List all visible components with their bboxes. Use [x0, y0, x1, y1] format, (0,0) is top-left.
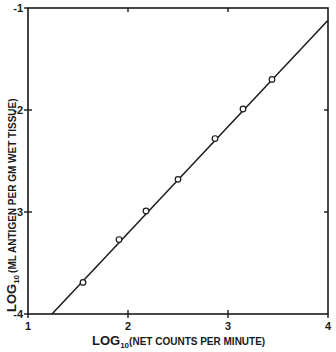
x-tick-label: 4: [325, 320, 332, 332]
data-point-marker: [116, 237, 122, 243]
x-tick-label: 1: [25, 320, 31, 332]
data-point-marker: [80, 280, 86, 286]
x-tick-label: 2: [125, 320, 131, 332]
fit-line: [52, 20, 328, 314]
y-axis-label-subscript: 10: [12, 274, 21, 283]
x-tick-label: 3: [225, 320, 231, 332]
y-axis-label-text: (ML ANTIGEN PER GM WET TISSUE): [7, 98, 18, 272]
data-point-marker: [212, 136, 218, 142]
data-point-marker: [143, 208, 149, 214]
svg-text:LOG10(NET COUNTS PER MINUTE): LOG10(NET COUNTS PER MINUTE): [92, 333, 265, 350]
axis-ticks: 1234-4-3-2-1: [13, 2, 332, 332]
x-axis-label-text: (NET COUNTS PER MINUTE): [129, 336, 265, 347]
plot-border: [28, 8, 328, 314]
chart: 1234-4-3-2-1 LOG10(NET COUNTS PER MINUTE…: [0, 0, 336, 352]
data-point-marker: [269, 77, 275, 83]
x-axis-label-prefix: LOG: [92, 333, 120, 348]
y-tick-label: -1: [13, 2, 23, 14]
data-point-marker: [175, 177, 181, 183]
x-axis-label: LOG10(NET COUNTS PER MINUTE): [92, 333, 265, 350]
y-axis-label-prefix: LOG: [4, 284, 19, 312]
regression-line: [52, 20, 328, 314]
data-point-marker: [240, 106, 246, 112]
plot-frame: [28, 8, 328, 314]
